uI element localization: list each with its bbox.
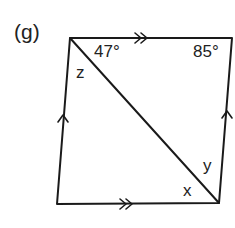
- variable-z-label: z: [76, 64, 85, 81]
- diagonal-line: [70, 38, 219, 203]
- variable-x-label: x: [183, 182, 192, 199]
- angle-85-label: 85°: [193, 43, 219, 60]
- angle-47-label: 47°: [94, 43, 120, 60]
- parallelogram-diagram: [0, 0, 235, 228]
- variable-y-label: y: [203, 157, 212, 174]
- right-arrow-icon: [222, 111, 232, 118]
